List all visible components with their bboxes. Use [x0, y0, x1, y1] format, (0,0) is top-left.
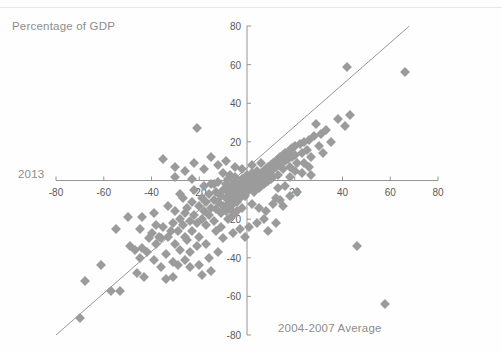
scatter-point: [326, 137, 336, 147]
scatter-point: [194, 232, 204, 242]
y-tick-label: 20: [230, 136, 241, 147]
scatter-point: [158, 154, 168, 164]
scatter-point: [139, 272, 149, 282]
scatter-point: [80, 276, 90, 286]
scatter-point: [271, 218, 281, 228]
scatter-point: [96, 261, 106, 271]
scatter-point: [381, 299, 391, 309]
scatter-point: [264, 226, 274, 236]
scatter-point: [182, 235, 192, 245]
scatter-point: [190, 158, 200, 168]
scatter-point: [123, 212, 133, 222]
x-tick-label: 40: [337, 187, 348, 198]
y-tick-label: 40: [230, 98, 241, 109]
scatter-point: [175, 245, 185, 255]
scatter-point: [218, 233, 228, 243]
scatter-point: [135, 224, 145, 234]
scatter-point: [206, 152, 216, 162]
scatter-point: [187, 174, 197, 184]
scatter-point: [340, 121, 350, 131]
scatter-point: [170, 172, 180, 182]
scatter-point: [352, 241, 362, 251]
scatter-point: [168, 272, 178, 282]
scatter-point: [342, 62, 352, 72]
scatter-point: [206, 266, 216, 276]
scatter-point: [116, 286, 126, 296]
y-tick-label: 80: [230, 21, 241, 32]
y-tick-label: 60: [230, 59, 241, 70]
x-tick-label: -40: [144, 187, 158, 198]
x-tick-label: 60: [385, 187, 396, 198]
scatter-point: [213, 247, 223, 257]
scatter-point: [156, 262, 166, 272]
plot-overlay: -80-60-40-20020406080-80-60-40-200204060…: [0, 0, 502, 353]
scatter-point: [180, 166, 190, 176]
scatter-point: [333, 114, 343, 124]
y-tick-label: -80: [227, 330, 241, 341]
scatter-point: [137, 212, 147, 222]
scatter-point: [318, 149, 328, 159]
scatter-point: [197, 270, 207, 280]
y-tick-label: -40: [227, 252, 241, 263]
scatter-point: [199, 164, 209, 174]
scatter-point: [161, 249, 171, 259]
scatter-point: [307, 152, 317, 162]
scatter-point: [149, 208, 159, 218]
scatter-point: [204, 253, 214, 263]
scatter-point: [75, 313, 85, 323]
scatter-point: [111, 224, 121, 234]
y-tick-label: -60: [227, 291, 241, 302]
scatter-point: [194, 261, 204, 271]
scatter-point: [311, 120, 321, 130]
scatter-point: [307, 170, 317, 180]
scatter-point: [149, 255, 159, 265]
chart-container: Percentage of GDP 2013 2004-2007 Average…: [0, 0, 502, 353]
scatter-point: [201, 239, 211, 249]
scatter-point: [135, 253, 145, 263]
x-tick-label: -60: [97, 187, 111, 198]
scatter-point: [240, 232, 250, 242]
scatter-point: [192, 123, 202, 133]
x-tick-label: 80: [432, 187, 443, 198]
x-tick-label: -80: [49, 187, 63, 198]
scatter-point: [400, 67, 410, 77]
scatter-point: [345, 110, 355, 120]
